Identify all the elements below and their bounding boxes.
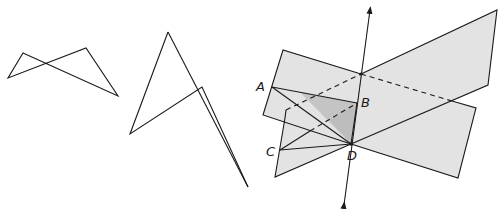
figure-1-crossed-quadrilateral — [8, 48, 118, 96]
label-d: D — [347, 148, 357, 163]
label-a: A — [255, 79, 265, 94]
figure-3-intersecting-planes: A B C D — [255, 10, 497, 205]
diagram-canvas: A B C D — [0, 0, 498, 209]
label-c: C — [266, 144, 276, 159]
label-b: B — [361, 95, 370, 110]
figure-2-skew-quadrilateral — [130, 32, 248, 187]
